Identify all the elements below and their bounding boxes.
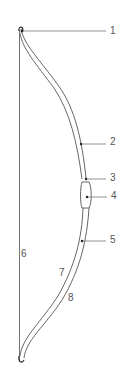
label-2-upper-limb: 2 xyxy=(110,137,116,147)
label-6-string: 6 xyxy=(21,249,27,259)
label-5-lower-limb: 5 xyxy=(110,235,116,245)
lower-limb-belly xyxy=(20,208,83,356)
label-8-back: 8 xyxy=(68,293,74,303)
bow-diagram xyxy=(0,0,125,384)
upper-limb-back xyxy=(21,29,86,178)
label-3-arrow-rest: 3 xyxy=(110,173,116,183)
label-4-grip: 4 xyxy=(111,191,117,201)
grip xyxy=(81,182,92,208)
label-7-belly: 7 xyxy=(59,268,65,278)
label-1-nock: 1 xyxy=(110,26,116,36)
upper-limb-belly xyxy=(20,33,82,179)
lower-limb-back xyxy=(24,208,89,358)
